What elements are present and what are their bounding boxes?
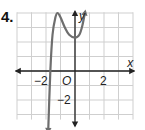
x-tick-label: −2 — [34, 74, 48, 88]
x-tick-label: 2 — [100, 74, 107, 88]
chart: xyO−22−2 — [0, 0, 145, 130]
origin-label: O — [62, 74, 71, 88]
y-tick-label: −2 — [57, 93, 71, 107]
y-axis-label: y — [78, 9, 86, 23]
x-axis-label: x — [126, 56, 134, 70]
